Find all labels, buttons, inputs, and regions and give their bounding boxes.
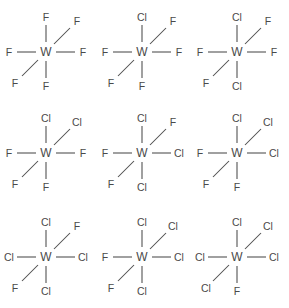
ligand-label-left: Cl (195, 252, 205, 263)
center-atom-label: W (231, 147, 242, 159)
center-atom-label: W (40, 147, 51, 159)
center-atom-label: W (40, 251, 51, 263)
ligand-label-right: Cl (78, 252, 88, 263)
molecule-structure-9: WClClClFClCl (191, 205, 287, 305)
ligand-label-bottom: F (43, 182, 50, 193)
ligand-label-right: Cl (269, 148, 279, 159)
ligand-label-left: F (197, 47, 204, 58)
ligand-label-right: Cl (269, 252, 279, 263)
molecule-structure-8: WClClClClFF (96, 205, 192, 305)
ligand-label-upper-right: Cl (263, 117, 273, 128)
ligand-label-lower-left: F (203, 179, 210, 190)
bond-upper-right (150, 28, 166, 44)
ligand-label-lower-left: F (108, 78, 115, 89)
ligand-label-bottom: F (234, 182, 241, 193)
molecule-structure-5: WClFClClFF (96, 101, 192, 201)
bond-upper-right (150, 233, 166, 249)
ligand-label-lower-left: F (203, 78, 210, 89)
ligand-label-bottom: Cl (137, 286, 147, 297)
molecule-structure-1: WFFFFFF (0, 0, 96, 100)
ligand-label-bottom: Cl (41, 286, 51, 297)
ligand-label-lower-left: F (12, 283, 19, 294)
ligand-label-top: Cl (137, 12, 147, 23)
ligand-label-top: Cl (137, 113, 147, 124)
ligand-label-upper-right: Cl (72, 117, 82, 128)
ligand-label-upper-right: F (74, 16, 81, 27)
ligand-label-left: F (6, 47, 13, 58)
ligand-label-top: F (43, 12, 50, 23)
ligand-label-left: F (102, 148, 109, 159)
ligand-label-top: Cl (41, 113, 51, 124)
bond-upper-right (54, 129, 70, 145)
ligand-label-right: F (176, 47, 183, 58)
ligand-label-bottom: F (43, 81, 50, 92)
molecule-structure-4: WClClFFFF (0, 101, 96, 201)
ligand-label-right: F (271, 47, 278, 58)
bond-lower-left (213, 60, 229, 76)
ligand-label-lower-left: F (108, 283, 115, 294)
molecule-structure-2: WClFFFFF (96, 0, 192, 100)
ligand-label-left: F (6, 148, 13, 159)
ligand-label-upper-right: F (74, 221, 81, 232)
ligand-label-upper-right: Cl (263, 221, 273, 232)
molecular-structures-diagram: WFFFFFFWClFFFFFWClFFClFFWClClFFFFWClFClC… (0, 0, 289, 308)
molecule-structure-6: WClClClFFF (191, 101, 287, 201)
center-atom-label: W (136, 251, 147, 263)
bond-upper-right (245, 28, 261, 44)
bond-lower-left (118, 161, 134, 177)
bond-upper-right (150, 129, 166, 145)
bond-lower-left (22, 265, 38, 281)
ligand-label-upper-right: F (265, 16, 272, 27)
ligand-label-right: F (80, 47, 87, 58)
ligand-label-right: F (80, 148, 87, 159)
ligand-label-lower-left: F (108, 179, 115, 190)
ligand-label-left: F (102, 252, 109, 263)
bond-lower-left (213, 265, 229, 281)
ligand-label-top: Cl (232, 12, 242, 23)
molecule-structure-3: WClFFClFF (191, 0, 287, 100)
bond-upper-right (54, 233, 70, 249)
ligand-label-bottom: F (234, 286, 241, 297)
ligand-label-top: Cl (137, 217, 147, 228)
ligand-label-top: Cl (232, 113, 242, 124)
bond-upper-right (245, 129, 261, 145)
center-atom-label: W (40, 46, 51, 58)
center-atom-label: W (231, 251, 242, 263)
ligand-label-bottom: F (139, 81, 146, 92)
bond-lower-left (118, 60, 134, 76)
bond-lower-left (118, 265, 134, 281)
ligand-label-left: Cl (4, 252, 14, 263)
ligand-label-right: Cl (174, 148, 184, 159)
ligand-label-lower-left: F (12, 179, 19, 190)
ligand-label-top: Cl (41, 217, 51, 228)
ligand-label-upper-right: Cl (168, 221, 178, 232)
ligand-label-left: F (102, 47, 109, 58)
bond-lower-left (22, 60, 38, 76)
ligand-label-right: Cl (174, 252, 184, 263)
bond-lower-left (213, 161, 229, 177)
center-atom-label: W (136, 46, 147, 58)
ligand-label-lower-left: F (12, 78, 19, 89)
ligand-label-top: Cl (232, 217, 242, 228)
bond-lower-left (22, 161, 38, 177)
ligand-label-bottom: Cl (232, 81, 242, 92)
ligand-label-lower-left: Cl (201, 283, 211, 294)
ligand-label-left: F (197, 148, 204, 159)
molecule-structure-7: WClFClClFCl (0, 205, 96, 305)
bond-upper-right (245, 233, 261, 249)
ligand-label-bottom: Cl (137, 182, 147, 193)
bond-upper-right (54, 28, 70, 44)
ligand-label-upper-right: F (170, 16, 177, 27)
ligand-label-upper-right: F (170, 117, 177, 128)
center-atom-label: W (136, 147, 147, 159)
center-atom-label: W (231, 46, 242, 58)
